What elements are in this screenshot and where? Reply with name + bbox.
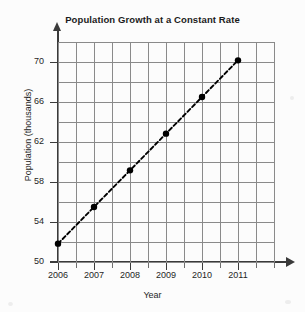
x-tick-label-2011: 2011 <box>218 270 258 280</box>
x-tick-2008 <box>130 262 131 270</box>
x-tick-minor-7 <box>274 262 275 268</box>
x-tick-2010 <box>202 262 203 270</box>
scan-speckle <box>290 96 294 100</box>
data-point-2006 <box>55 240 61 246</box>
data-line <box>58 60 238 243</box>
x-tick-label-2009: 2009 <box>146 270 186 280</box>
y-tick-54 <box>50 222 58 223</box>
data-series-population <box>58 42 274 262</box>
gridline-v-12 <box>274 42 275 262</box>
x-axis-title: Year <box>0 290 305 300</box>
x-tick-label-2007: 2007 <box>74 270 114 280</box>
data-point-2008 <box>127 167 133 173</box>
y-tick-70 <box>50 62 58 63</box>
chart-page: Population Growth at a Constant Rate 70 … <box>0 0 305 312</box>
y-axis-title: Population (thousands) <box>23 50 33 220</box>
y-tick-66 <box>50 102 58 103</box>
data-point-2007 <box>91 204 97 210</box>
gridline-h-11 <box>58 262 274 263</box>
x-tick-label-2008: 2008 <box>110 270 150 280</box>
x-tick-2006 <box>58 262 59 270</box>
y-tick-50 <box>50 262 58 263</box>
x-tick-2007 <box>94 262 95 270</box>
data-point-2009 <box>163 130 169 136</box>
x-tick-label-2010: 2010 <box>182 270 222 280</box>
scan-speckle <box>285 300 291 304</box>
x-tick-label-2006: 2006 <box>38 270 78 280</box>
data-point-2010 <box>199 94 205 100</box>
y-tick-label-50: 50 <box>14 256 44 266</box>
data-point-2011 <box>235 57 241 63</box>
x-tick-2009 <box>166 262 167 270</box>
plot-area <box>58 42 274 262</box>
y-tick-62 <box>50 142 58 143</box>
scan-speckle <box>8 302 13 306</box>
y-axis-arrow-icon <box>53 22 61 31</box>
y-tick-58 <box>50 182 58 183</box>
x-tick-2011 <box>238 262 239 270</box>
chart-title: Population Growth at a Constant Rate <box>0 14 305 25</box>
x-axis-arrow-icon <box>286 257 295 267</box>
